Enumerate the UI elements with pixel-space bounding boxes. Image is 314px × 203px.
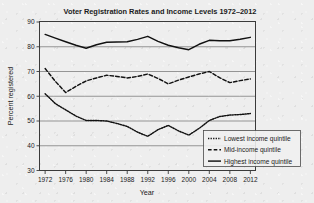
series-line-1 [45,69,250,93]
x-tick-label: 2008 [223,176,238,183]
y-axis-ticks: 30405060708090 [27,18,40,174]
chart-title: Voter Registration Rates and Income Leve… [64,7,257,16]
x-tick-label: 1992 [141,176,156,183]
x-tick-label: 1976 [58,176,73,183]
x-tick-label: 1972 [38,176,53,183]
y-tick-label: 50 [27,117,35,124]
x-axis-ticks: 1972197619801984198819921996200020042008… [38,171,258,184]
x-axis-title: Year [140,188,155,197]
y-tick-label: 80 [27,43,35,50]
x-tick-label: 1988 [120,176,135,183]
x-tick-label: 2004 [202,176,217,183]
y-axis-title: Percent registered [6,67,15,126]
legend-label-1[interactable]: Mid-income quintile [224,146,281,154]
line-chart: Voter Registration Rates and Income Leve… [0,0,314,203]
y-tick-label: 70 [27,68,35,75]
x-tick-label: 1984 [99,176,114,183]
y-tick-label: 30 [27,167,35,174]
chart-container: Voter Registration Rates and Income Leve… [0,0,314,203]
series-line-0 [45,94,250,137]
legend-label-2[interactable]: Highest income quintile [224,158,293,166]
x-tick-label: 2000 [182,176,197,183]
x-tick-label: 2012 [243,176,258,183]
chart-legend: Lowest income quintileMid-income quintil… [204,131,301,167]
series-line-2 [45,34,250,49]
x-tick-label: 1980 [79,176,94,183]
y-tick-label: 40 [27,142,35,149]
x-tick-label: 1996 [161,176,176,183]
y-tick-label: 90 [27,18,35,25]
y-tick-label: 60 [27,93,35,100]
legend-label-0[interactable]: Lowest income quintile [224,135,291,143]
